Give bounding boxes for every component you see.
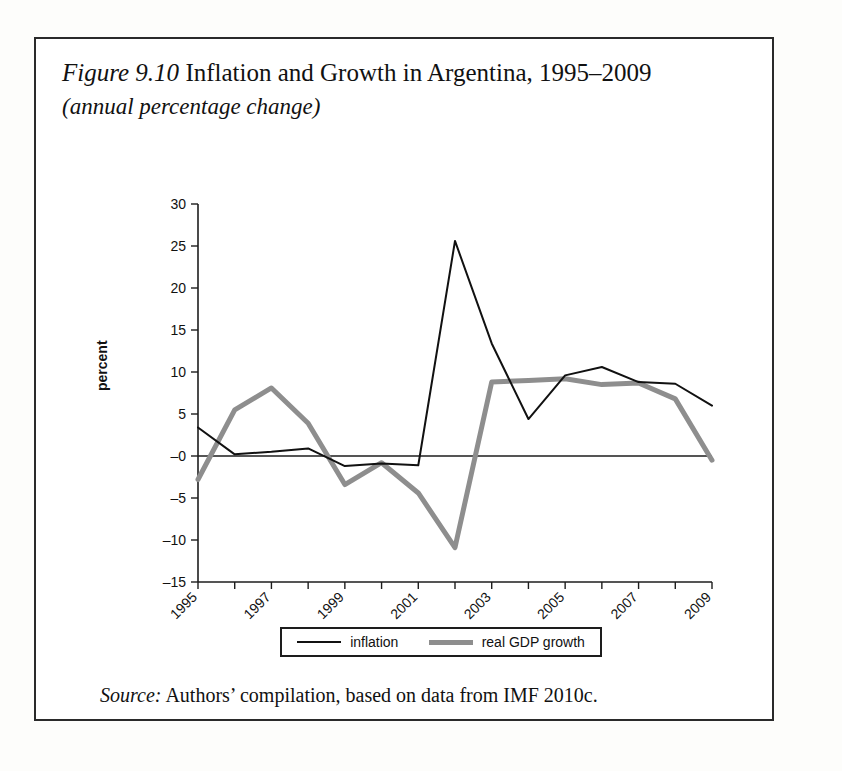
chart-legend: inflation real GDP growth [280,627,602,657]
figure-subtitle: (annual percentage change) [62,94,320,119]
y-tick-label: 10 [170,364,186,380]
legend-item-inflation: inflation [297,634,398,650]
y-tick-label: 30 [170,196,186,212]
y-tick-label: –5 [170,490,186,506]
figure-title: Inflation and Growth in Argentina, 1995–… [185,59,651,86]
x-tick-label: 1997 [240,589,273,622]
figure-frame: Figure 9.10 Inflation and Growth in Arge… [34,37,774,721]
figure-page: Figure 9.10 Inflation and Growth in Arge… [0,0,842,771]
series-line-inflation [198,241,712,466]
y-tick-label: –10 [163,532,187,548]
x-tick-label: 2005 [534,589,567,622]
line-chart-svg: 30252015105–0–5–10–151995199719992001200… [36,144,776,624]
x-tick-label: 1999 [314,589,347,622]
legend-swatch-inflation-icon [297,641,341,643]
chart-plot-area: 30252015105–0–5–10–151995199719992001200… [36,144,776,624]
series-line-real-gdp-growth [198,379,712,548]
y-tick-label: –0 [170,448,186,464]
legend-label-inflation: inflation [350,634,398,650]
legend-item-gdp: real GDP growth [429,634,585,650]
figure-caption: Figure 9.10 Inflation and Growth in Arge… [62,57,722,122]
legend-label-gdp: real GDP growth [482,634,585,650]
x-tick-label: 2009 [681,589,714,622]
y-tick-label: 5 [178,406,186,422]
y-tick-label: 20 [170,280,186,296]
source-note: Source: Authors’ compilation, based on d… [100,684,740,707]
x-tick-label: 1995 [167,589,200,622]
figure-label: Figure 9.10 [62,59,179,86]
legend-swatch-gdp-icon [429,640,473,645]
y-tick-label: 15 [170,322,186,338]
x-tick-label: 2003 [460,589,493,622]
x-tick-label: 2001 [387,589,420,622]
source-label: Source: [100,684,161,706]
source-text: Authors’ compilation, based on data from… [165,684,597,706]
x-tick-label: 2007 [607,589,640,622]
y-tick-label: –15 [163,574,187,590]
y-tick-label: 25 [170,238,186,254]
